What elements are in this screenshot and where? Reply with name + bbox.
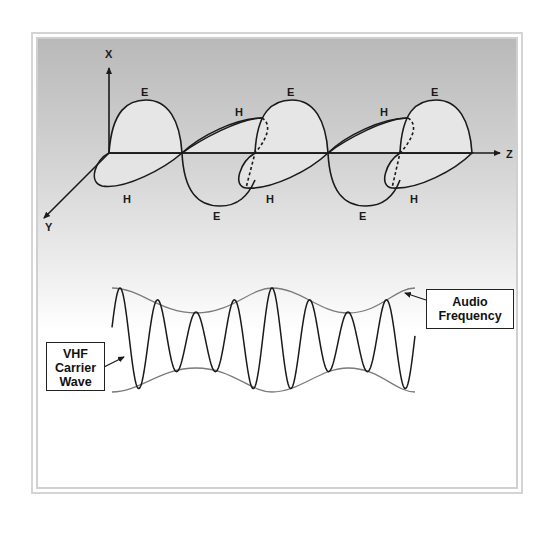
h-lobe-1: [94, 153, 182, 186]
e-label: E: [213, 210, 220, 222]
h-lobe-3: [239, 153, 328, 188]
e-lobe-1: [109, 100, 182, 153]
audio-frequency-callout: Audio Frequency: [426, 289, 514, 329]
h-label: H: [410, 193, 418, 205]
axis-label-z: Z: [506, 148, 513, 160]
h-label: H: [266, 193, 274, 205]
envelope-bottom: [112, 368, 415, 392]
callout-line: Frequency: [427, 309, 513, 323]
h-lobe-2: [182, 118, 262, 153]
axis-label-x: X: [105, 48, 113, 60]
e-label: E: [359, 210, 366, 222]
am-wave: [104, 288, 426, 392]
e-lobe-5: [400, 100, 472, 153]
h-lobe-4: [328, 118, 408, 153]
e-label: E: [141, 86, 148, 98]
axis-label-y: Y: [45, 221, 53, 233]
callout-line: VHF: [47, 347, 104, 361]
vhf-carrier-callout: VHF Carrier Wave: [46, 342, 105, 391]
callout-line: Audio: [427, 295, 513, 309]
callout-line: Carrier: [47, 361, 104, 375]
callout-line: Wave: [47, 375, 104, 389]
h-label: H: [235, 106, 243, 118]
h-label: H: [380, 106, 388, 118]
h-label: H: [123, 193, 131, 205]
h-lobe-5: [385, 153, 472, 188]
e-lobe-3: [255, 100, 328, 153]
e-label: E: [431, 86, 438, 98]
e-label: E: [287, 86, 294, 98]
em-wave-diagram: X Y Z E E E E E H H H H H: [0, 0, 551, 538]
